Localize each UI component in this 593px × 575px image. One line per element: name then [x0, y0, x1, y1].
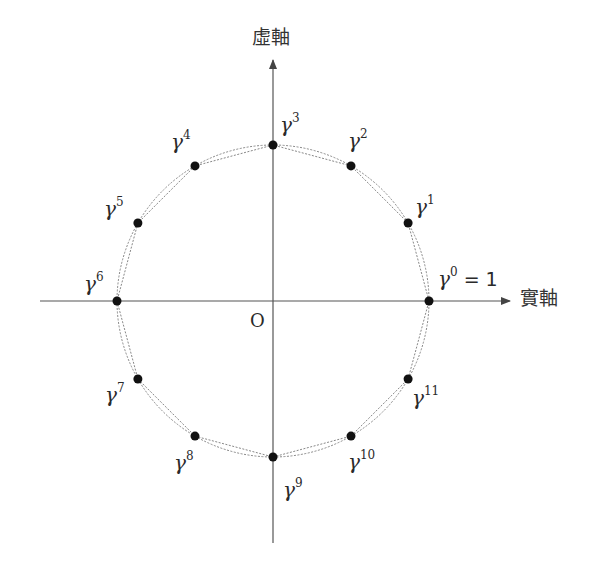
imaginary-axis-label: 虛軸 — [252, 28, 290, 47]
chord-segment — [138, 379, 195, 436]
real-axis-label: 實軸 — [520, 289, 558, 308]
root-label-10: γ10 — [348, 451, 375, 472]
chord-segment — [351, 379, 408, 436]
root-point-1 — [404, 219, 413, 228]
chord-segment — [138, 166, 195, 223]
root-label-6: γ6 — [84, 273, 104, 294]
root-label-2: γ2 — [348, 130, 368, 151]
origin-label: O — [250, 312, 265, 330]
root-point-9 — [269, 453, 278, 462]
root-label-4: γ4 — [171, 131, 191, 152]
root-label-7: γ7 — [105, 384, 125, 405]
root-point-5 — [133, 219, 142, 228]
root-label-0: γ0 = 1 — [438, 268, 498, 289]
root-point-3 — [269, 141, 278, 150]
root-label-3: γ3 — [280, 114, 300, 135]
root-label-9: γ9 — [283, 479, 303, 500]
root-point-6 — [113, 297, 122, 306]
chord-segment — [117, 223, 138, 301]
chord-segment — [195, 145, 273, 166]
root-label-1: γ1 — [415, 196, 435, 217]
root-point-11 — [404, 375, 413, 384]
root-point-7 — [133, 375, 142, 384]
chord-segment — [195, 436, 273, 457]
root-point-8 — [191, 432, 200, 441]
chord-segment — [351, 166, 408, 223]
root-point-10 — [347, 432, 356, 441]
root-point-0 — [425, 297, 434, 306]
chord-segment — [408, 223, 429, 301]
chord-segment — [273, 436, 351, 457]
chord-segment — [117, 301, 138, 379]
chord-segment — [408, 301, 429, 379]
root-label-11: γ11 — [412, 387, 439, 408]
root-label-5: γ5 — [104, 198, 124, 219]
root-point-4 — [191, 161, 200, 170]
root-label-8: γ8 — [174, 452, 194, 473]
root-point-2 — [347, 161, 356, 170]
chord-segment — [273, 145, 351, 166]
